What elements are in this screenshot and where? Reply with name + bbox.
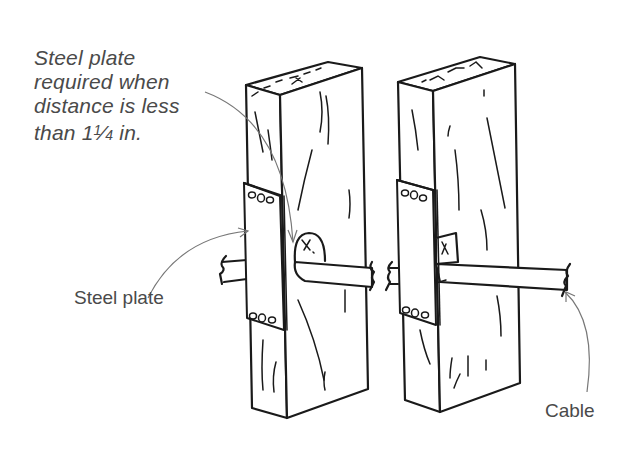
note-line-3: distance is less: [34, 94, 180, 118]
note-line-4-text: than 1: [34, 121, 94, 144]
note-suffix: in.: [113, 121, 142, 144]
steel-plate-requirement-note: Steel plate required when distance is le…: [34, 46, 180, 147]
steel-plate-left: [244, 183, 287, 330]
note-line-2: required when: [34, 70, 180, 94]
note-line-1: Steel plate: [34, 46, 180, 70]
cable-leader-arrow: [565, 292, 589, 392]
cable-label: Cable: [545, 400, 595, 422]
note-line-4: than 11⁄4 in.: [34, 118, 180, 147]
steel-plate-right: [397, 180, 440, 325]
fraction-numerator: 1: [94, 122, 102, 138]
leader-lines: [148, 92, 589, 392]
steel-plate-label: Steel plate: [74, 287, 164, 309]
